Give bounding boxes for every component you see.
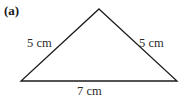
base-length-label: 7 cm (77, 85, 102, 98)
geometry-figure: (a) 5 cm 5 cm 7 cm (0, 0, 190, 103)
left-side-length-label: 5 cm (27, 37, 52, 50)
right-side-length-label: 5 cm (139, 37, 164, 50)
